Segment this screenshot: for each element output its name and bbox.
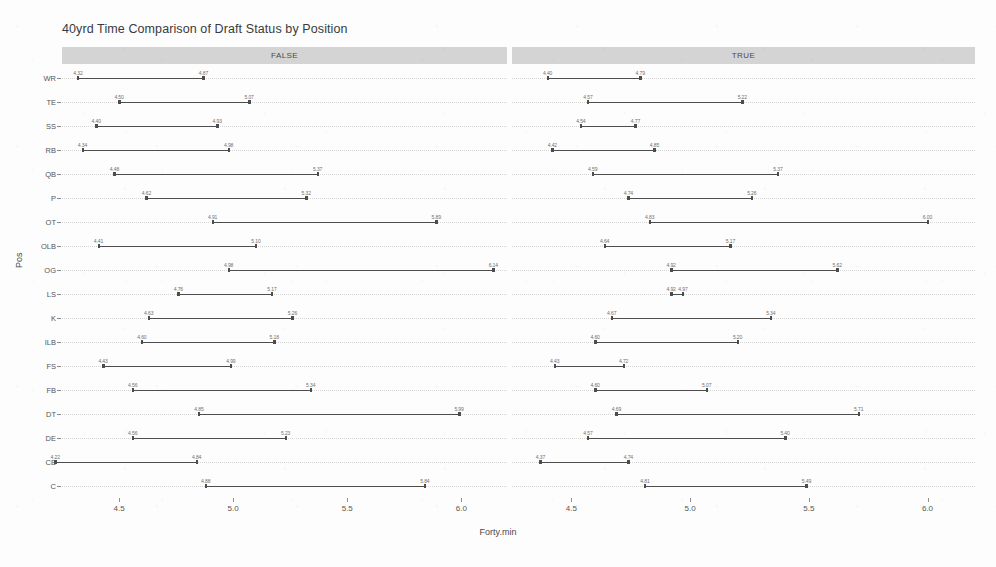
range-segment-ss-false[interactable] <box>96 126 217 127</box>
endpoint-marker-low[interactable] <box>594 340 597 344</box>
endpoint-marker-high[interactable] <box>202 76 205 80</box>
endpoint-marker-low[interactable] <box>132 436 135 440</box>
endpoint-marker-high[interactable] <box>858 412 861 416</box>
range-segment-c-true[interactable] <box>645 486 806 487</box>
endpoint-marker-low[interactable] <box>649 220 652 224</box>
range-segment-dt-false[interactable] <box>199 414 459 415</box>
range-segment-olb-false[interactable] <box>99 246 256 247</box>
range-segment-cb-true[interactable] <box>540 462 628 463</box>
endpoint-marker-low[interactable] <box>132 388 135 392</box>
endpoint-marker-high[interactable] <box>751 196 754 200</box>
endpoint-marker-high[interactable] <box>784 436 787 440</box>
range-segment-fb-true[interactable] <box>595 390 707 391</box>
endpoint-marker-high[interactable] <box>777 172 780 176</box>
range-segment-rb-false[interactable] <box>83 150 229 151</box>
range-segment-de-true[interactable] <box>588 438 785 439</box>
endpoint-marker-high[interactable] <box>248 100 251 104</box>
range-segment-k-true[interactable] <box>612 318 771 319</box>
range-segment-ot-true[interactable] <box>650 222 928 223</box>
endpoint-marker-low[interactable] <box>554 364 557 368</box>
endpoint-marker-high[interactable] <box>770 316 773 320</box>
endpoint-marker-low[interactable] <box>627 196 630 200</box>
endpoint-marker-high[interactable] <box>458 412 461 416</box>
endpoint-marker-low[interactable] <box>547 76 550 80</box>
endpoint-marker-low[interactable] <box>580 124 583 128</box>
endpoint-marker-low[interactable] <box>205 484 208 488</box>
endpoint-marker-low[interactable] <box>615 412 618 416</box>
endpoint-marker-low[interactable] <box>212 220 215 224</box>
endpoint-marker-low[interactable] <box>54 460 57 464</box>
endpoint-marker-low[interactable] <box>141 340 144 344</box>
endpoint-marker-low[interactable] <box>670 292 673 296</box>
endpoint-marker-low[interactable] <box>594 388 597 392</box>
endpoint-marker-high[interactable] <box>230 364 233 368</box>
range-segment-og-true[interactable] <box>671 270 837 271</box>
range-segment-c-false[interactable] <box>206 486 425 487</box>
endpoint-marker-low[interactable] <box>551 148 554 152</box>
endpoint-marker-high[interactable] <box>492 268 495 272</box>
endpoint-marker-low[interactable] <box>148 316 151 320</box>
endpoint-marker-high[interactable] <box>729 244 732 248</box>
endpoint-marker-high[interactable] <box>317 172 320 176</box>
endpoint-marker-high[interactable] <box>653 148 656 152</box>
range-segment-p-false[interactable] <box>146 198 306 199</box>
range-segment-rb-true[interactable] <box>552 150 654 151</box>
range-segment-fs-false[interactable] <box>103 366 231 367</box>
endpoint-marker-low[interactable] <box>113 172 116 176</box>
endpoint-marker-low[interactable] <box>611 316 614 320</box>
range-segment-te-true[interactable] <box>588 102 742 103</box>
endpoint-marker-high[interactable] <box>737 340 740 344</box>
endpoint-marker-low[interactable] <box>95 124 98 128</box>
endpoint-marker-high[interactable] <box>273 340 276 344</box>
endpoint-marker-low[interactable] <box>670 268 673 272</box>
endpoint-marker-high[interactable] <box>271 292 274 296</box>
endpoint-marker-high[interactable] <box>682 292 685 296</box>
endpoint-marker-high[interactable] <box>805 484 808 488</box>
endpoint-marker-low[interactable] <box>77 76 80 80</box>
endpoint-marker-high[interactable] <box>310 388 313 392</box>
range-segment-qb-false[interactable] <box>114 174 317 175</box>
range-segment-qb-true[interactable] <box>593 174 778 175</box>
endpoint-marker-high[interactable] <box>639 76 642 80</box>
endpoint-marker-low[interactable] <box>198 412 201 416</box>
range-segment-de-false[interactable] <box>133 438 286 439</box>
endpoint-marker-high[interactable] <box>228 148 231 152</box>
endpoint-marker-low[interactable] <box>644 484 647 488</box>
endpoint-marker-low[interactable] <box>102 364 105 368</box>
endpoint-marker-low[interactable] <box>177 292 180 296</box>
range-segment-ot-false[interactable] <box>213 222 437 223</box>
range-segment-ss-true[interactable] <box>581 126 636 127</box>
range-segment-ilb-false[interactable] <box>142 342 274 343</box>
endpoint-marker-high[interactable] <box>424 484 427 488</box>
range-segment-wr-false[interactable] <box>78 78 204 79</box>
endpoint-marker-high[interactable] <box>196 460 199 464</box>
range-segment-cb-false[interactable] <box>55 462 196 463</box>
range-segment-wr-true[interactable] <box>548 78 641 79</box>
range-segment-p-true[interactable] <box>628 198 751 199</box>
range-segment-olb-true[interactable] <box>605 246 731 247</box>
endpoint-marker-low[interactable] <box>118 100 121 104</box>
endpoint-marker-low[interactable] <box>228 268 231 272</box>
endpoint-marker-high[interactable] <box>305 196 308 200</box>
range-segment-ls-false[interactable] <box>178 294 272 295</box>
endpoint-marker-high[interactable] <box>285 436 288 440</box>
range-segment-k-false[interactable] <box>149 318 293 319</box>
endpoint-marker-low[interactable] <box>604 244 607 248</box>
endpoint-marker-low[interactable] <box>145 196 148 200</box>
range-segment-fb-false[interactable] <box>133 390 311 391</box>
endpoint-marker-low[interactable] <box>98 244 101 248</box>
endpoint-marker-high[interactable] <box>623 364 626 368</box>
endpoint-marker-high[interactable] <box>291 316 294 320</box>
range-segment-ilb-true[interactable] <box>595 342 737 343</box>
endpoint-marker-high[interactable] <box>255 244 258 248</box>
range-segment-fs-true[interactable] <box>555 366 624 367</box>
endpoint-marker-high[interactable] <box>706 388 709 392</box>
endpoint-marker-low[interactable] <box>539 460 542 464</box>
endpoint-marker-high[interactable] <box>741 100 744 104</box>
endpoint-marker-high[interactable] <box>634 124 637 128</box>
range-segment-dt-true[interactable] <box>616 414 858 415</box>
range-segment-og-false[interactable] <box>229 270 494 271</box>
endpoint-marker-high[interactable] <box>216 124 219 128</box>
endpoint-marker-high[interactable] <box>927 220 930 224</box>
endpoint-marker-low[interactable] <box>587 436 590 440</box>
